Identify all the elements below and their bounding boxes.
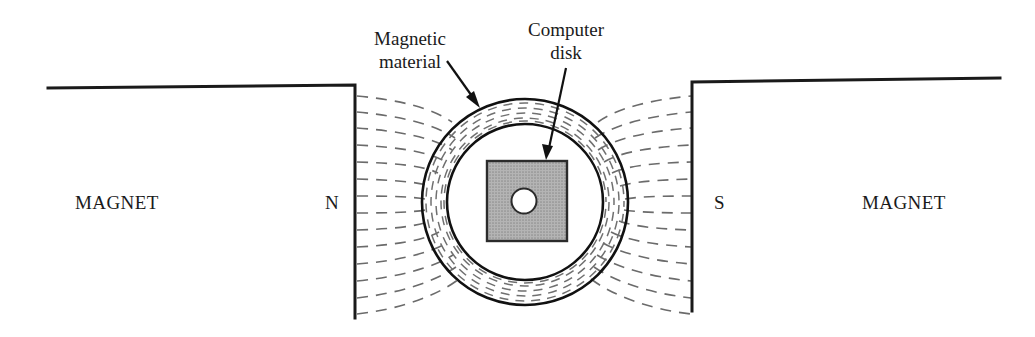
right-magnet (692, 78, 1000, 311)
arrow-head (466, 91, 480, 108)
field-line (598, 96, 691, 122)
callout-arrow-line (549, 68, 566, 148)
field-line (357, 279, 459, 314)
magnetic-material-callout-arrow (447, 61, 480, 108)
computer-disk-label-line1: Computer (528, 19, 605, 40)
callout-arrow-line (447, 61, 474, 99)
south-pole-label: S (714, 192, 725, 213)
field-line (624, 210, 691, 213)
computer-disk-label-line2: disk (550, 42, 582, 63)
field-line (620, 179, 691, 186)
field-line (357, 96, 452, 122)
magnetic-material-label-line2: material (379, 51, 441, 72)
field-line (357, 145, 446, 162)
computer-disk (487, 161, 567, 241)
right-magnet-label: MAGNET (862, 192, 946, 213)
field-line (357, 267, 456, 298)
magnet-disk-diagram: Magnetic material Computer disk MAGNET N… (0, 0, 1035, 337)
field-line (357, 221, 431, 230)
field-line (357, 243, 447, 264)
field-line (619, 221, 691, 230)
disk-center-hole (512, 189, 537, 214)
field-line (625, 196, 691, 199)
field-line (357, 210, 426, 213)
field-line (357, 179, 430, 186)
field-lines-right (591, 96, 691, 314)
field-line (594, 267, 691, 298)
arrow-head (542, 144, 553, 160)
magnetic-material-label-line1: Magnetic (374, 28, 446, 49)
north-pole-label: N (325, 192, 339, 213)
right-magnet-outline (692, 78, 1000, 311)
figure-root: Magnetic material Computer disk MAGNET N… (0, 0, 1035, 337)
field-line (357, 196, 425, 199)
field-line (591, 279, 691, 314)
computer-disk-callout-arrow (542, 68, 566, 160)
field-line (603, 243, 691, 264)
left-magnet-label: MAGNET (75, 192, 159, 213)
